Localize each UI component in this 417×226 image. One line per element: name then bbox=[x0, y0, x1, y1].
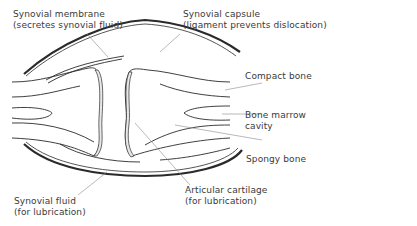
label-line: Bone marrow bbox=[245, 110, 306, 121]
label-line: (for lubrication) bbox=[14, 207, 86, 218]
label-synovial-fluid: Synovial fluid (for lubrication) bbox=[14, 196, 86, 218]
synovial-joint-diagram: Synovial membrane (secretes synovial flu… bbox=[0, 0, 417, 226]
label-line: Compact bone bbox=[245, 71, 312, 82]
right-bone bbox=[125, 69, 230, 156]
left-bone bbox=[12, 68, 101, 156]
label-line: Spongy bone bbox=[246, 154, 306, 165]
label-spongy-bone: Spongy bone bbox=[246, 154, 306, 165]
synovial-membrane bbox=[46, 56, 230, 162]
label-line: (secretes synovial fluid) bbox=[13, 20, 123, 31]
label-line: Synovial capsule bbox=[183, 9, 327, 20]
label-line: Synovial fluid bbox=[14, 196, 86, 207]
label-synovial-membrane: Synovial membrane (secretes synovial flu… bbox=[13, 9, 123, 31]
label-synovial-capsule: Synovial capsule (ligament prevents disl… bbox=[183, 9, 327, 31]
label-line: Synovial membrane bbox=[13, 9, 123, 20]
label-articular-cartilage: Articular cartilage (for lubrication) bbox=[185, 185, 267, 207]
label-line: (ligament prevents dislocation) bbox=[183, 20, 327, 31]
label-line: (for lubrication) bbox=[185, 196, 267, 207]
label-compact-bone: Compact bone bbox=[245, 71, 312, 82]
articular-cartilage bbox=[94, 70, 134, 157]
label-line: cavity bbox=[245, 121, 306, 132]
label-line: Articular cartilage bbox=[185, 185, 267, 196]
label-bone-marrow-cavity: Bone marrow cavity bbox=[245, 110, 306, 132]
